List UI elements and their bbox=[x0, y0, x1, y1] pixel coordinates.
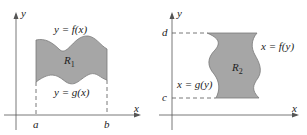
graph-2 bbox=[155, 0, 307, 135]
x-axis-label: x bbox=[134, 103, 139, 114]
left-curve-label: x = g(y) bbox=[177, 79, 213, 90]
tick-d: d bbox=[162, 27, 168, 38]
region-label: R1 bbox=[64, 55, 75, 69]
bottom-curve-label: y = g(x) bbox=[54, 87, 90, 98]
y-axis-label: y bbox=[21, 8, 26, 19]
x-axis-label: x bbox=[292, 103, 297, 114]
tick-a: a bbox=[33, 119, 39, 130]
y-axis-label: y bbox=[177, 8, 182, 19]
tick-b: b bbox=[104, 119, 110, 130]
tick-c: c bbox=[162, 92, 167, 103]
top-curve-label: y = f(x) bbox=[54, 24, 87, 35]
graph-1 bbox=[0, 0, 155, 135]
panel-region-between-y-curves: y x y = f(x) y = g(x) R1 a b bbox=[0, 0, 155, 135]
panel-region-between-x-curves: y x x = f(y) x = g(y) R2 d c bbox=[155, 0, 307, 135]
right-curve-label: x = f(y) bbox=[261, 41, 294, 52]
region-label: R2 bbox=[232, 62, 243, 76]
